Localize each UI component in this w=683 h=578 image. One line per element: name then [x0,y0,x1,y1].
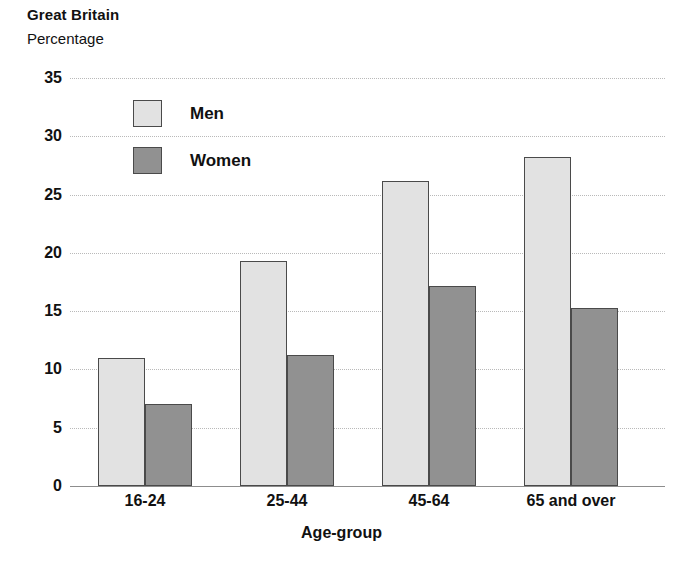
y-tick-label: 15 [14,303,62,319]
legend-label-women: Women [190,151,251,171]
x-tick-label: 45-64 [409,492,450,510]
gridline [70,195,665,196]
bar-chart: Great Britain Percentage 05101520253035 … [0,0,683,578]
y-axis-tick-labels: 05101520253035 [8,78,62,486]
y-tick-label: 25 [14,187,62,203]
plot-area [70,78,665,486]
legend-label-men: Men [190,104,224,124]
x-tick-label: 25-44 [267,492,308,510]
y-tick-label: 20 [14,245,62,261]
axis-baseline [70,486,665,487]
x-tick-label: 65 and over [527,492,616,510]
bar-women-65-and-over [571,308,618,486]
y-tick-label: 35 [14,70,62,86]
chart-title: Great Britain [27,6,119,23]
bar-men-45-64 [382,181,429,486]
y-tick-label: 0 [14,478,62,494]
legend-swatch-women [133,147,162,174]
bar-women-25-44 [287,355,334,486]
bar-men-25-44 [240,261,287,486]
y-tick-label: 10 [14,361,62,377]
bar-men-65-and-over [524,157,571,486]
x-axis-title: Age-group [0,524,683,542]
x-axis-tick-labels: 16-2425-4445-6465 and over [70,492,665,522]
bar-men-16-24 [98,358,145,486]
legend-item-men: Men [133,100,224,127]
gridline [70,78,665,79]
y-tick-label: 30 [14,128,62,144]
legend-swatch-men [133,100,162,127]
gridline [70,136,665,137]
bar-women-45-64 [429,286,476,487]
gridline [70,253,665,254]
x-tick-label: 16-24 [125,492,166,510]
legend-item-women: Women [133,147,251,174]
chart-subtitle: Percentage [27,30,104,47]
bar-women-16-24 [145,404,192,486]
y-tick-label: 5 [14,420,62,436]
